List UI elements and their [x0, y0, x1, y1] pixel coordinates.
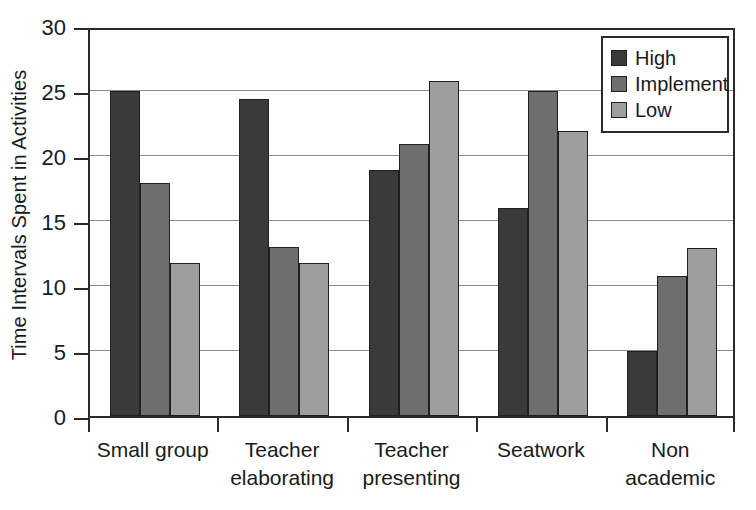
- x-tick-mark: [733, 418, 735, 432]
- y-tick-mark: [74, 288, 88, 290]
- legend-swatch-icon: [611, 102, 627, 118]
- y-tick-label: 10: [42, 273, 66, 303]
- bar: [269, 247, 299, 416]
- y-tick-label: 0: [54, 403, 66, 433]
- x-tick-mark: [476, 418, 478, 432]
- bar: [239, 99, 269, 416]
- legend-label: High: [635, 47, 676, 69]
- bar-group: [369, 30, 459, 416]
- bar: [110, 91, 140, 416]
- legend-item[interactable]: High: [611, 45, 719, 71]
- bar: [299, 263, 329, 416]
- bar: [528, 91, 558, 416]
- bar: [498, 208, 528, 416]
- legend-item[interactable]: Implement: [611, 71, 719, 97]
- bar: [558, 131, 588, 416]
- legend-item[interactable]: Low: [611, 97, 719, 123]
- x-axis-label-line1: Teacher: [245, 438, 320, 461]
- bar: [627, 351, 657, 416]
- x-axis-label-line1: Non: [651, 438, 690, 461]
- x-axis-label: Teacherelaborating: [217, 436, 346, 492]
- y-axis-ticks: 302520151050: [0, 0, 88, 510]
- legend-swatch-icon: [611, 50, 627, 66]
- x-axis-ticks: [88, 418, 735, 434]
- y-tick-label: 25: [42, 78, 66, 108]
- y-tick-mark: [74, 353, 88, 355]
- y-tick-label: 15: [42, 208, 66, 238]
- bar: [429, 81, 459, 416]
- bar: [140, 183, 170, 416]
- bar-group: [498, 30, 588, 416]
- y-tick-mark: [74, 93, 88, 95]
- legend-swatch-icon: [611, 76, 627, 92]
- x-axis-label: Seatwork: [476, 436, 605, 464]
- y-tick-mark: [74, 223, 88, 225]
- bar-chart-figure: Time Intervals Spent in Activities 30252…: [0, 0, 756, 510]
- x-axis-label: Teacherpresenting: [347, 436, 476, 492]
- y-tick-mark: [74, 28, 88, 30]
- x-axis-labels: Small groupTeacherelaboratingTeacherpres…: [88, 436, 735, 506]
- x-tick-mark: [606, 418, 608, 432]
- bar-group: [239, 30, 329, 416]
- legend-label: Implement: [635, 73, 728, 95]
- x-tick-mark: [347, 418, 349, 432]
- x-axis-label: Nonacademic: [606, 436, 735, 492]
- x-axis-label: Small group: [88, 436, 217, 464]
- x-axis-label-line1: Seatwork: [497, 438, 585, 461]
- bar: [369, 170, 399, 416]
- y-tick-label: 20: [42, 143, 66, 173]
- y-tick-label: 5: [54, 338, 66, 368]
- y-tick-mark: [74, 158, 88, 160]
- bar: [170, 263, 200, 416]
- bar: [687, 248, 717, 416]
- y-tick-mark: [74, 418, 88, 420]
- chart-legend: HighImplementLow: [601, 36, 729, 133]
- x-axis-label-line1: Teacher: [374, 438, 449, 461]
- bar-group: [110, 30, 200, 416]
- legend-label: Low: [635, 99, 672, 121]
- x-axis-label-line2: presenting: [347, 464, 476, 492]
- x-tick-mark: [217, 418, 219, 432]
- x-axis-label-line1: Small group: [97, 438, 209, 461]
- x-axis-label-line2: elaborating: [217, 464, 346, 492]
- bar: [657, 276, 687, 416]
- bar: [399, 144, 429, 416]
- x-axis-label-line2: academic: [606, 464, 735, 492]
- x-tick-mark: [88, 418, 90, 432]
- y-tick-label: 30: [42, 13, 66, 43]
